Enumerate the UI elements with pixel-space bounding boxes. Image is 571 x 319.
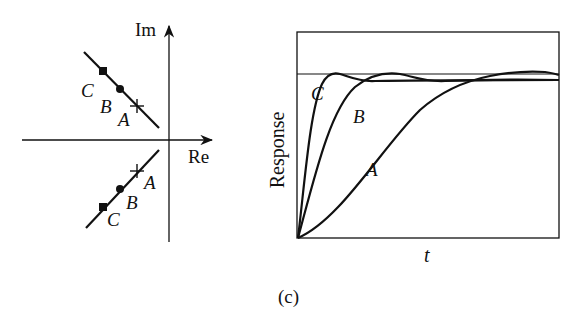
- pole-label-lower-a: A: [142, 172, 156, 193]
- response-curve-a: [298, 72, 559, 238]
- figure-canvas: Im Re C B A A B C C B A Res: [0, 0, 571, 319]
- pole-label-upper-a: A: [116, 109, 130, 130]
- circle-marker-icon: [116, 85, 124, 93]
- pole-label-upper-b: B: [100, 96, 112, 117]
- y-axis-label: Response: [266, 112, 289, 189]
- pole-label-upper-c: C: [81, 80, 94, 101]
- x-axis-label: t: [424, 244, 430, 266]
- circle-marker-icon: [116, 185, 124, 193]
- curve-label-c: C: [311, 83, 324, 104]
- response-plot: C B A Response t: [266, 32, 559, 266]
- real-axis-label: Re: [188, 146, 209, 167]
- curve-label-a: A: [364, 159, 378, 180]
- pole-label-lower-b: B: [126, 192, 138, 213]
- pole-plot: Im Re C B A A B C: [22, 19, 212, 242]
- curve-label-b: B: [353, 106, 365, 127]
- square-marker-icon: [99, 67, 107, 75]
- response-curve-c: [298, 73, 559, 238]
- imag-axis-label: Im: [135, 19, 156, 40]
- figure-caption: (c): [278, 286, 299, 308]
- square-marker-icon: [99, 203, 107, 211]
- cross-marker-icon: [130, 164, 144, 178]
- plot-frame: [297, 32, 559, 238]
- pole-label-lower-c: C: [107, 209, 120, 230]
- response-curve-b: [298, 73, 559, 238]
